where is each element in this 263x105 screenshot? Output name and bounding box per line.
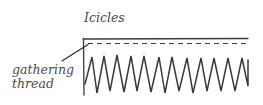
icicles-drawing	[0, 0, 263, 105]
icicle-zigzag-stitch	[85, 55, 248, 93]
fabric-top-edge	[83, 39, 248, 40]
